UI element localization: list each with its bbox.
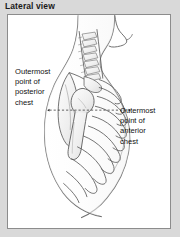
page-title: Lateral view [5,1,55,11]
figure-panel: Outermost point of posterior chest Outer… [7,14,171,229]
label-posterior-line-3: posterior [15,87,50,97]
label-anterior-line-2: point of [120,116,155,126]
label-outermost-point-posterior-chest: Outermost point of posterior chest [15,67,50,108]
label-anterior-line-3: anterior [120,126,155,136]
label-posterior-line-4: chest [15,98,50,108]
label-posterior-line-1: Outermost [15,67,50,77]
label-outermost-point-anterior-chest: Outermost point of anterior chest [120,106,155,147]
label-posterior-line-2: point of [15,77,50,87]
label-anterior-line-4: chest [120,137,155,147]
label-anterior-line-1: Outermost [120,106,155,116]
